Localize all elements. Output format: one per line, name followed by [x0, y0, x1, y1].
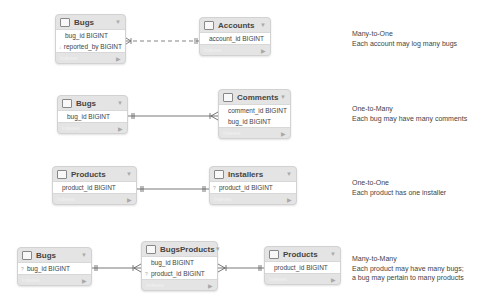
field-row[interactable]: ?product_id BIGINT	[210, 182, 296, 193]
relationship-title: Many-to-Many	[352, 254, 464, 264]
table-header[interactable]: Bugs ▼	[58, 96, 127, 110]
field-label: bug_id BIGINT	[65, 32, 108, 39]
expand-icon[interactable]: ▶	[287, 196, 292, 203]
field-row[interactable]: bug_id BIGINT	[219, 116, 290, 127]
expand-icon[interactable]: ▶	[331, 276, 336, 283]
table-icon	[269, 250, 279, 259]
field-label: bug_id BIGINT	[228, 118, 271, 125]
table-fields: ?bug_id BIGINT	[18, 262, 91, 275]
indexes-label: Indexes	[146, 282, 208, 288]
table-products-o2o[interactable]: Products ▼ product_id BIGINT Indexes▶	[52, 166, 137, 205]
field-label: account_id BIGINT	[209, 35, 264, 42]
table-bugsproducts[interactable]: BugsProducts ▼ bug_id BIGINT ?product_id…	[141, 241, 218, 291]
expand-icon[interactable]: ▶	[261, 47, 266, 54]
field-label: product_id BIGINT	[151, 270, 205, 277]
table-header[interactable]: Comments ▼	[219, 90, 290, 104]
table-bugs-m2m[interactable]: Bugs ▼ ?bug_id BIGINT Indexes▶	[17, 247, 92, 286]
expand-icon[interactable]: ▶	[118, 125, 123, 132]
field-row[interactable]: ↓reported_by BIGINT	[56, 41, 125, 52]
key-icon: ?	[145, 271, 149, 277]
field-row[interactable]: account_id BIGINT	[200, 33, 270, 44]
field-row[interactable]: product_id BIGINT	[265, 262, 340, 273]
key-icon: ?	[213, 185, 217, 191]
table-title: Products	[283, 250, 330, 259]
field-row[interactable]: bug_id BIGINT	[58, 111, 127, 122]
table-header[interactable]: BugsProducts ▼	[142, 242, 217, 256]
table-indexes[interactable]: Indexes▶	[56, 53, 125, 63]
table-header[interactable]: Installers ▼	[210, 167, 296, 181]
field-label: reported_by BIGINT	[64, 43, 122, 50]
field-row[interactable]: product_id BIGINT	[53, 182, 136, 193]
table-comments[interactable]: Comments ▼ comment_id BIGINT bug_id BIGI…	[218, 89, 291, 139]
expand-icon[interactable]: ▶	[127, 196, 132, 203]
table-title: Accounts	[218, 21, 260, 30]
table-icon	[204, 21, 214, 30]
relationship-text: Each account may log many bugs	[352, 39, 457, 49]
field-label: bug_id BIGINT	[151, 259, 194, 266]
table-bugs-o2m[interactable]: Bugs ▼ bug_id BIGINT Indexes▶	[57, 95, 128, 134]
relationship-title: One-to-One	[352, 178, 446, 188]
table-fields: bug_id BIGINT ↓reported_by BIGINT	[56, 29, 125, 53]
field-row[interactable]: bug_id BIGINT	[56, 30, 125, 41]
table-fields: bug_id BIGINT	[58, 110, 127, 123]
table-header[interactable]: Bugs ▼	[56, 15, 125, 29]
indexes-label: Indexes	[60, 55, 116, 61]
table-icon	[146, 245, 156, 254]
table-header[interactable]: Products ▼	[53, 167, 136, 181]
table-fields: product_id BIGINT	[53, 181, 136, 194]
table-icon	[57, 170, 67, 179]
relationship-title: Many-to-One	[352, 29, 457, 39]
dropdown-icon[interactable]: ▼	[260, 22, 266, 28]
expand-icon[interactable]: ▶	[116, 55, 121, 62]
indexes-label: Indexes	[269, 276, 331, 282]
table-fields: account_id BIGINT	[200, 32, 270, 45]
expand-icon[interactable]: ▶	[82, 277, 87, 284]
table-fields: ?product_id BIGINT	[210, 181, 296, 194]
table-products-m2m[interactable]: Products ▼ product_id BIGINT Indexes▶	[264, 246, 341, 285]
field-label: product_id BIGINT	[62, 184, 116, 191]
table-indexes[interactable]: Indexes▶	[53, 194, 136, 204]
table-header[interactable]: Accounts ▼	[200, 18, 270, 32]
table-bugs-m2o[interactable]: Bugs ▼ bug_id BIGINT ↓reported_by BIGINT…	[55, 14, 126, 64]
dropdown-icon[interactable]: ▼	[286, 171, 292, 177]
dropdown-icon[interactable]: ▼	[117, 100, 123, 106]
dropdown-icon[interactable]: ▼	[330, 251, 336, 257]
field-row[interactable]: bug_id BIGINT	[142, 257, 217, 268]
relationship-text: a bug may pertain to many products	[352, 273, 464, 283]
table-accounts[interactable]: Accounts ▼ account_id BIGINT Indexes▶	[199, 17, 271, 56]
foreign-key-icon: ↓	[59, 44, 62, 50]
field-label: comment_id BIGINT	[228, 107, 287, 114]
field-label: bug_id BIGINT	[67, 113, 110, 120]
dropdown-icon[interactable]: ▼	[81, 252, 87, 258]
relationship-text: Each product may have many bugs;	[352, 264, 464, 274]
table-indexes[interactable]: Indexes▶	[142, 280, 217, 290]
table-indexes[interactable]: Indexes▶	[18, 275, 91, 285]
field-row[interactable]: ?product_id BIGINT	[142, 268, 217, 279]
field-label: product_id BIGINT	[219, 184, 273, 191]
table-indexes[interactable]: Indexes▶	[265, 274, 340, 284]
table-indexes[interactable]: Indexes▶	[200, 45, 270, 55]
dropdown-icon[interactable]: ▼	[115, 19, 121, 25]
table-icon	[223, 93, 233, 102]
expand-icon[interactable]: ▶	[281, 130, 286, 137]
table-header[interactable]: Products ▼	[265, 247, 340, 261]
field-row[interactable]: comment_id BIGINT	[219, 105, 290, 116]
indexes-label: Indexes	[223, 130, 281, 136]
table-header[interactable]: Bugs ▼	[18, 248, 91, 262]
table-title: Installers	[228, 170, 286, 179]
table-indexes[interactable]: Indexes▶	[210, 194, 296, 204]
indexes-label: Indexes	[22, 277, 82, 283]
indexes-label: Indexes	[214, 196, 287, 202]
table-indexes[interactable]: Indexes▶	[58, 123, 127, 133]
field-row[interactable]: ?bug_id BIGINT	[18, 263, 91, 274]
table-installers[interactable]: Installers ▼ ?product_id BIGINT Indexes▶	[209, 166, 297, 205]
connector-one-to-one	[137, 186, 209, 192]
dropdown-icon[interactable]: ▼	[215, 246, 221, 252]
table-title: Bugs	[76, 99, 117, 108]
expand-icon[interactable]: ▶	[208, 282, 213, 289]
table-indexes[interactable]: Indexes▶	[219, 128, 290, 138]
dropdown-icon[interactable]: ▼	[280, 94, 286, 100]
connector-one-to-many	[128, 112, 218, 120]
relationship-description: Many-to-Many Each product may have many …	[352, 254, 464, 283]
dropdown-icon[interactable]: ▼	[126, 171, 132, 177]
